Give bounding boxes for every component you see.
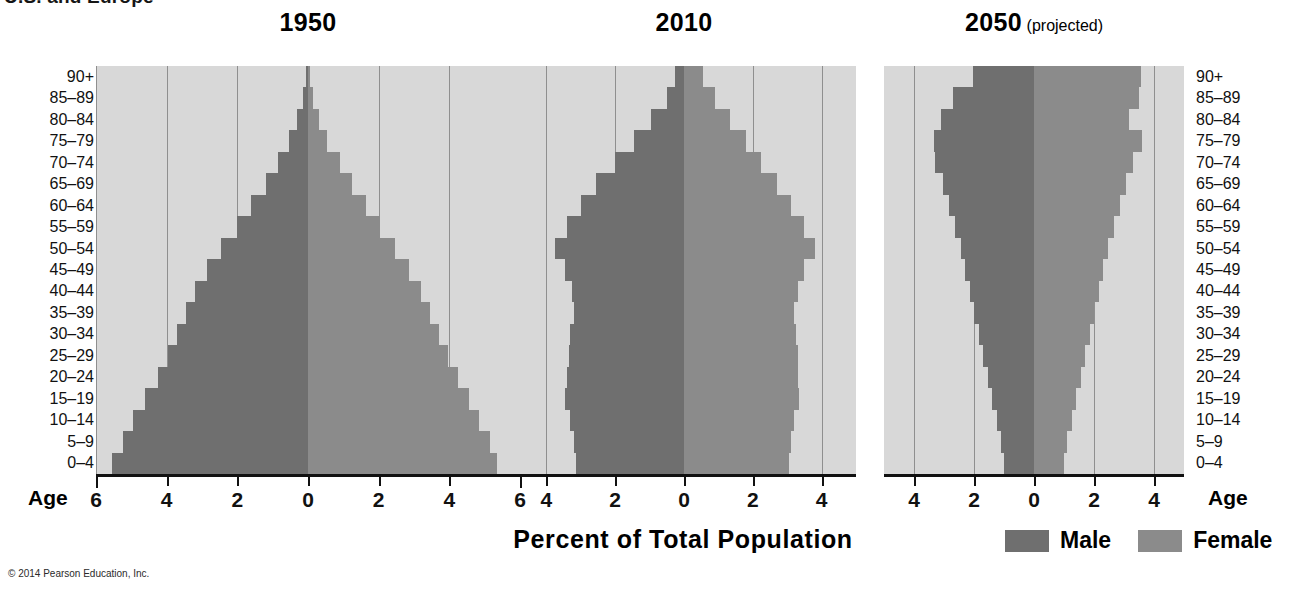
- bar-male: [581, 195, 684, 216]
- age-label: 35–39: [20, 305, 94, 321]
- projected-note: (projected): [1022, 17, 1103, 34]
- pyramid-row: [884, 324, 1184, 345]
- bar-female: [1034, 345, 1085, 366]
- pyramid-row: [884, 238, 1184, 259]
- legend: Male Female: [1005, 527, 1288, 554]
- x-axis-tick: [379, 477, 381, 486]
- pyramid-row: [96, 431, 520, 452]
- bar-female: [1034, 281, 1099, 302]
- age-label: 70–74: [1196, 155, 1270, 171]
- age-label: 5–9: [1196, 434, 1270, 450]
- pyramid-row: [512, 130, 856, 151]
- pyramid-row: [96, 367, 520, 388]
- pyramid-row: [884, 216, 1184, 237]
- bar-male: [935, 152, 1034, 173]
- bar-female: [308, 195, 366, 216]
- legend-label-female: Female: [1193, 527, 1272, 554]
- bar-female: [1034, 431, 1067, 452]
- pyramid-row: [512, 388, 856, 409]
- age-label: 15–19: [1196, 391, 1270, 407]
- pyramid-row: [96, 87, 520, 108]
- bar-male: [133, 410, 308, 431]
- bar-male: [569, 345, 684, 366]
- pyramid-row: [884, 195, 1184, 216]
- age-label: 90+: [20, 69, 94, 85]
- age-label: 85–89: [20, 90, 94, 106]
- pyramid-row: [884, 152, 1184, 173]
- bar-female: [684, 238, 815, 259]
- legend-swatch-male: [1005, 530, 1049, 552]
- age-label: 55–59: [20, 219, 94, 235]
- plot-area-2050: [884, 66, 1184, 474]
- bar-female: [684, 453, 789, 474]
- bar-male: [961, 238, 1035, 259]
- bar-female: [1034, 238, 1108, 259]
- bar-female: [1034, 216, 1114, 237]
- bar-male: [278, 152, 308, 173]
- bar-male: [207, 259, 308, 280]
- x-axis-tick: [167, 477, 169, 486]
- x-axis-tick: [237, 477, 239, 486]
- bar-male: [949, 195, 1035, 216]
- bar-male: [266, 173, 308, 194]
- bar-male: [943, 173, 1035, 194]
- pyramid-row: [96, 259, 520, 280]
- age-axis-title-left: Age: [28, 486, 68, 510]
- bar-male: [112, 453, 308, 474]
- bar-female: [1034, 259, 1103, 280]
- pyramid-panel-2010: [512, 66, 856, 474]
- age-label: 70–74: [20, 155, 94, 171]
- age-label: 25–29: [20, 348, 94, 364]
- bar-male: [992, 388, 1034, 409]
- pyramid-panel-2050: [884, 66, 1184, 474]
- age-label: 30–34: [20, 326, 94, 342]
- pyramid-row: [512, 109, 856, 130]
- bar-male: [988, 367, 1035, 388]
- age-label: 60–64: [20, 198, 94, 214]
- panel-title-2050: 2050 (projected): [884, 8, 1184, 37]
- pyramid-row: [884, 66, 1184, 87]
- bar-male: [955, 216, 1035, 237]
- figure-header-text: U.S. and Europe: [4, 0, 154, 8]
- age-label: 30–34: [1196, 326, 1270, 342]
- pyramid-row: [884, 431, 1184, 452]
- pyramid-row: [96, 281, 520, 302]
- plot-area-1950: [96, 66, 520, 474]
- pyramid-row: [884, 259, 1184, 280]
- pyramid-row: [512, 324, 856, 345]
- age-label: 40–44: [1196, 283, 1270, 299]
- pyramid-row: [96, 109, 520, 130]
- bar-male: [574, 431, 684, 452]
- bar-female: [684, 345, 798, 366]
- pyramid-row: [512, 259, 856, 280]
- legend-swatch-female: [1138, 530, 1182, 552]
- bar-male: [979, 324, 1035, 345]
- bar-male: [572, 281, 684, 302]
- pyramid-row: [884, 173, 1184, 194]
- x-axis-tick-label: 2: [609, 488, 621, 512]
- bar-male: [615, 152, 684, 173]
- x-axis-tick: [684, 477, 686, 486]
- bar-male: [177, 324, 308, 345]
- copyright-notice: © 2014 Pearson Education, Inc.: [8, 568, 149, 579]
- age-label: 65–69: [20, 176, 94, 192]
- bar-female: [308, 367, 458, 388]
- pyramid-row: [512, 238, 856, 259]
- bar-male: [941, 109, 1034, 130]
- bar-male: [965, 259, 1034, 280]
- pyramid-row: [96, 453, 520, 474]
- x-axis-tick-label: 4: [816, 488, 828, 512]
- age-label: 60–64: [1196, 198, 1270, 214]
- pyramid-row: [96, 345, 520, 366]
- age-label: 80–84: [20, 112, 94, 128]
- bar-female: [684, 367, 798, 388]
- pyramid-row: [884, 302, 1184, 323]
- pyramid-row: [96, 238, 520, 259]
- bar-male: [567, 216, 684, 237]
- bar-male: [570, 324, 684, 345]
- bar-male: [145, 388, 308, 409]
- bar-male: [565, 388, 684, 409]
- pyramid-row: [884, 367, 1184, 388]
- bar-male: [567, 367, 684, 388]
- x-axis-title: Percent of Total Population: [383, 525, 983, 554]
